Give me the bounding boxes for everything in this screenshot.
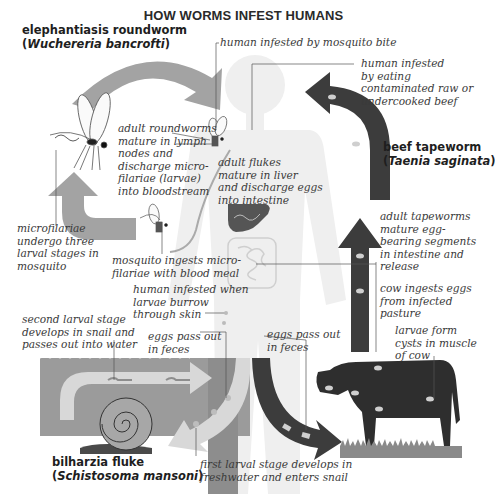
annotation-larvae-cysts: larvae form cysts in muscle of cow (395, 324, 477, 362)
cow-icon (316, 360, 460, 446)
paren-close: ) (490, 154, 495, 168)
annotation-flukes-mature: adult flukes mature in liver and dischar… (218, 156, 323, 206)
species-common-name: elephantiasis roundworm (22, 23, 187, 37)
annotation-cow-ingests: cow ingests eggs from infected pasture (380, 282, 472, 320)
annotation-mosquito-ingests: mosquito ingests micro- filariae with bl… (112, 254, 241, 279)
page-title: HOW WORMS INFEST HUMANS (0, 8, 487, 23)
species-scientific-line: (Schistosoma mansoni) (52, 469, 203, 483)
species-scientific-name: Schistosoma mansoni (57, 469, 198, 483)
species-scientific-name: Taenia saginata (388, 154, 490, 168)
annotation-eggs-feces-fluke: eggs pass out in feces (148, 330, 221, 355)
species-scientific-line: (Taenia saginata) (383, 154, 495, 168)
mosquito-feeding-icon (140, 203, 168, 232)
species-label-roundworm: elephantiasis roundworm (Wuchereria banc… (22, 23, 187, 51)
mosquito-icon (50, 91, 114, 170)
annotation-larvae-burrow: human infested when larvae burrow throug… (133, 283, 249, 321)
roundworm-cycle-arrow-icon (72, 61, 222, 110)
species-label-tapeworm: beef tapeworm (Taenia saginata) (383, 140, 495, 168)
annotation-beef-infested: human infested by eating contaminated ra… (361, 57, 473, 107)
annotation-mosquito-bite: human infested by mosquito bite (220, 36, 396, 49)
species-scientific-line: (Wuchereria bancrofti) (22, 37, 187, 51)
species-scientific-name: Wuchereria bancrofti (27, 37, 165, 51)
paren-close: ) (165, 37, 170, 51)
annotation-tapeworm-mature: adult tapeworms mature egg- bearing segm… (380, 210, 476, 273)
species-common-name: beef tapeworm (383, 140, 495, 154)
tapeworm-up-arrow-icon (338, 218, 382, 352)
annotation-microfilariae-stages: microfilariae undergo three larval stage… (17, 222, 99, 272)
species-label-fluke: bilharzia fluke (Schistosoma mansoni) (52, 455, 203, 483)
species-common-name: bilharzia fluke (52, 455, 203, 469)
annotation-roundworm-mature: adult roundworms mature in lymph nodes a… (118, 122, 217, 198)
annotation-first-larval: first larval stage develops in freshwate… (200, 458, 352, 483)
annotation-eggs-feces-tapeworm: eggs pass out in feces (267, 328, 340, 353)
annotation-second-larval: second larval stage develops in snail an… (22, 313, 137, 351)
